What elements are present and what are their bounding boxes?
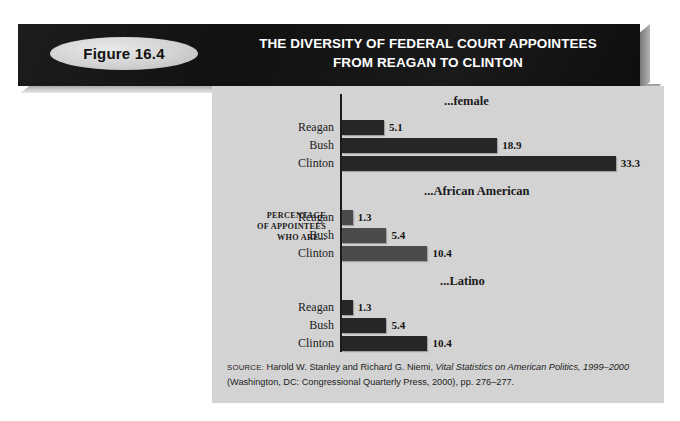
title-line-1: THE DIVERSITY OF FEDERAL COURT APPOINTEE…: [228, 34, 628, 53]
bar-category-label: Reagan: [212, 120, 334, 135]
bar-category-label: Bush: [212, 318, 334, 333]
chart-panel: PERCENTAGE OF APPOINTEES WHO ARE... ...f…: [212, 86, 664, 403]
bar: [342, 246, 427, 261]
page-title: THE DIVERSITY OF FEDERAL COURT APPOINTEE…: [228, 34, 628, 72]
bar: [342, 228, 386, 243]
bar: [342, 138, 497, 153]
chart-plot-area: PERCENTAGE OF APPOINTEES WHO ARE... ...f…: [212, 86, 664, 403]
bar: [342, 300, 353, 315]
bar-category-label: Bush: [212, 228, 334, 243]
bar-value-label: 10.4: [432, 246, 451, 261]
bar-category-label: Reagan: [212, 300, 334, 315]
source-italic-title: Vital Statistics on American Politics, 1…: [436, 362, 630, 372]
bar-category-label: Reagan: [212, 210, 334, 225]
source-label: SOURCE:: [227, 363, 264, 372]
bar-value-label: 33.3: [621, 156, 640, 171]
bar-category-label: Clinton: [212, 156, 334, 171]
figure-number-label: Figure 16.4: [83, 45, 164, 62]
bar-value-label: 5.4: [391, 318, 405, 333]
source-text-before: Harold W. Stanley and Richard G. Niemi,: [264, 362, 436, 372]
bar-value-label: 1.3: [358, 300, 372, 315]
bar: [342, 210, 353, 225]
banner-face: Figure 16.4 THE DIVERSITY OF FEDERAL COU…: [18, 24, 640, 86]
source-text-after: (Washington, DC: Congressional Quarterly…: [227, 377, 514, 387]
bar: [342, 156, 616, 171]
bar: [342, 336, 427, 351]
bar: [342, 318, 386, 333]
source-citation: SOURCE: Harold W. Stanley and Richard G.…: [227, 360, 657, 389]
bar-category-label: Clinton: [212, 246, 334, 261]
bar-value-label: 1.3: [358, 210, 372, 225]
bar-value-label: 18.9: [502, 138, 521, 153]
figure-banner: Figure 16.4 THE DIVERSITY OF FEDERAL COU…: [18, 24, 656, 90]
title-line-2: FROM REAGAN TO CLINTON: [228, 53, 628, 72]
bar-value-label: 10.4: [432, 336, 451, 351]
group-heading: ...female: [444, 94, 489, 109]
bar: [342, 120, 384, 135]
bar-value-label: 5.1: [389, 120, 403, 135]
group-heading: ...Latino: [440, 274, 485, 289]
bar-category-label: Clinton: [212, 336, 334, 351]
bar-category-label: Bush: [212, 138, 334, 153]
figure-number-badge: Figure 16.4: [50, 37, 198, 70]
bar-value-label: 5.4: [391, 228, 405, 243]
group-heading: ...African American: [424, 184, 530, 199]
